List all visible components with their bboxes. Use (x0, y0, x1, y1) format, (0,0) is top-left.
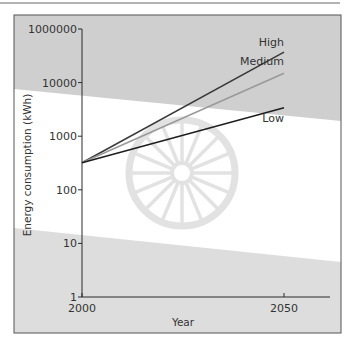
y-tick-label: 1000000 (28, 23, 77, 36)
series-label-medium: Medium (240, 55, 284, 68)
wheel-hub (172, 163, 192, 183)
y-tick-label: 1000 (49, 130, 77, 143)
x-axis-title: Year (171, 316, 195, 328)
background-layer (14, 15, 341, 333)
series-label-low: Low (262, 112, 284, 125)
x-tick-label: 2000 (68, 302, 96, 315)
x-tick-label: 2050 (270, 302, 298, 315)
y-tick-label: 10 (63, 237, 77, 250)
y-tick-label: 10000 (42, 77, 77, 90)
series-label-high: High (259, 36, 284, 49)
energy-chart: 110100100010000100000020002050YearEnergy… (0, 0, 347, 347)
y-tick-label: 100 (56, 184, 77, 197)
y-axis-title: Energy consumption (kWh) (21, 94, 33, 237)
